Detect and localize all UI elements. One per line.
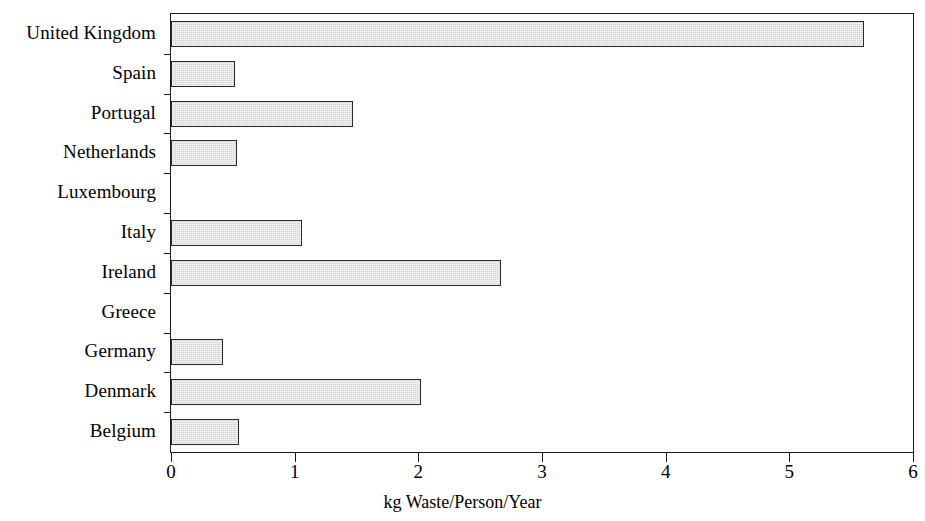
y-axis-label: Italy	[121, 222, 156, 241]
y-axis-label: Portugal	[91, 103, 156, 122]
bar	[171, 220, 302, 246]
bar	[171, 419, 239, 445]
bar	[171, 339, 223, 365]
y-axis-label: Luxembourg	[57, 182, 156, 201]
y-axis-category-labels: United KingdomSpainPortugalNetherlandsLu…	[0, 13, 162, 453]
bar	[171, 61, 235, 87]
x-axis-tick-label: 6	[893, 462, 925, 482]
y-axis-label: United Kingdom	[26, 23, 156, 42]
bar	[171, 140, 237, 166]
x-axis-title: kg Waste/Person/Year	[0, 492, 925, 512]
y-axis-label: Greece	[102, 302, 156, 321]
bar	[171, 379, 421, 405]
x-axis-tick-label: 5	[769, 462, 809, 482]
y-axis-label: Germany	[85, 341, 156, 360]
x-axis-tick-label: 1	[275, 462, 315, 482]
y-axis-label: Spain	[112, 63, 156, 82]
bar	[171, 260, 501, 286]
y-axis-label: Netherlands	[63, 142, 156, 161]
y-axis-label: Denmark	[85, 381, 156, 400]
x-axis-tick-label: 3	[522, 462, 562, 482]
x-axis-tick-label: 0	[151, 462, 191, 482]
bar	[171, 21, 864, 47]
x-axis-tick-label: 2	[398, 462, 438, 482]
bar	[171, 101, 353, 127]
bar-series	[171, 14, 913, 452]
x-axis-tick-label: 4	[646, 462, 686, 482]
y-axis-label: Belgium	[90, 421, 156, 440]
y-axis-label: Ireland	[102, 262, 157, 281]
bar-chart: United KingdomSpainPortugalNetherlandsLu…	[0, 0, 925, 521]
